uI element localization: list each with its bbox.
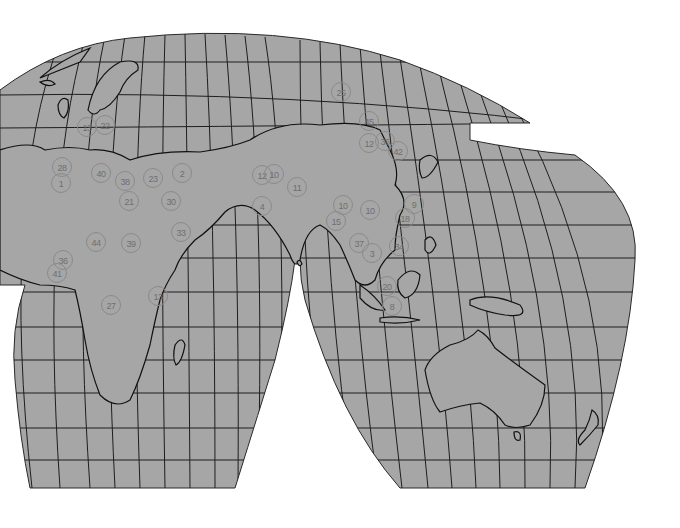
region-marker[interactable]: 38: [115, 171, 135, 191]
region-marker[interactable]: 41: [47, 263, 67, 283]
region-marker[interactable]: 21: [119, 191, 139, 211]
region-marker[interactable]: 44: [86, 232, 106, 252]
world-map: [0, 0, 680, 528]
region-marker[interactable]: 30: [161, 191, 181, 211]
region-marker[interactable]: 15: [326, 211, 346, 231]
region-marker[interactable]: 4: [252, 196, 272, 216]
region-marker[interactable]: 2: [172, 163, 192, 183]
region-marker[interactable]: 3: [362, 243, 382, 263]
region-marker[interactable]: 10: [360, 200, 380, 220]
region-marker[interactable]: 20: [377, 276, 397, 296]
region-marker[interactable]: 25: [331, 82, 351, 102]
region-marker[interactable]: 13: [77, 117, 97, 137]
region-marker[interactable]: 27: [101, 295, 121, 315]
region-marker[interactable]: 18: [395, 208, 415, 228]
region-marker[interactable]: 42: [388, 141, 408, 161]
region-marker[interactable]: 8: [382, 296, 402, 316]
region-marker[interactable]: 45: [359, 111, 379, 131]
region-marker[interactable]: 23: [143, 168, 163, 188]
region-marker[interactable]: 40: [91, 163, 111, 183]
region-marker[interactable]: 10: [264, 164, 284, 184]
region-marker[interactable]: 22: [95, 115, 115, 135]
region-marker[interactable]: 39: [121, 233, 141, 253]
region-marker[interactable]: 28: [52, 157, 72, 177]
region-marker[interactable]: 34: [389, 236, 409, 256]
region-marker[interactable]: 13: [148, 286, 168, 306]
region-marker[interactable]: 11: [287, 177, 307, 197]
region-marker[interactable]: 33: [171, 222, 191, 242]
